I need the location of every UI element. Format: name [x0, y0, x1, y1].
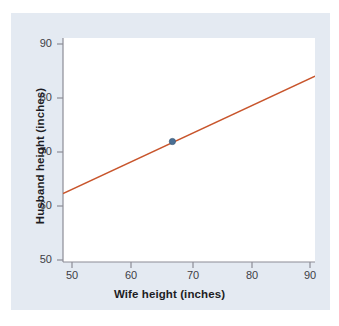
- regression-line: [63, 76, 315, 193]
- x-tick-label-70: 70: [178, 269, 208, 281]
- x-tick-label-50: 50: [57, 269, 87, 281]
- x-axis-title: Wife height (inches): [0, 288, 339, 300]
- x-tick-label-60: 60: [116, 269, 146, 281]
- data-point-mean: [169, 138, 175, 144]
- x-tick-label-90: 90: [295, 269, 325, 281]
- chart-figure: 90 80 70 60 50 50 60 70 80 90 Wife heigh…: [0, 0, 339, 326]
- y-axis-title: Husband height (inches): [34, 44, 46, 268]
- y-axis-ticks: [57, 44, 63, 260]
- x-axis-ticks: [72, 262, 310, 268]
- x-tick-label-80: 80: [237, 269, 267, 281]
